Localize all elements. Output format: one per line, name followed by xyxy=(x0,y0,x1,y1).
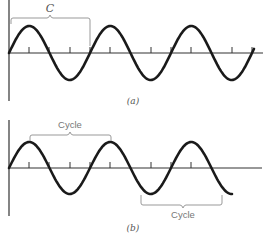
label-c: C xyxy=(46,2,55,15)
ticks-b xyxy=(29,162,191,168)
caption-b: (b) xyxy=(127,223,140,233)
bracket-cycle-bottom xyxy=(141,195,222,208)
label-cycle-top: Cycle xyxy=(58,119,82,130)
bracket-cycle-top xyxy=(30,132,111,141)
sine-wave-figure: C (a) Cycle Cycle (b) xyxy=(0,0,266,234)
ticks-a xyxy=(29,47,252,53)
caption-a: (a) xyxy=(127,96,140,106)
label-cycle-bottom: Cycle xyxy=(171,209,195,220)
panel-a: C (a) xyxy=(9,0,263,106)
panel-b: Cycle Cycle (b) xyxy=(9,119,262,233)
